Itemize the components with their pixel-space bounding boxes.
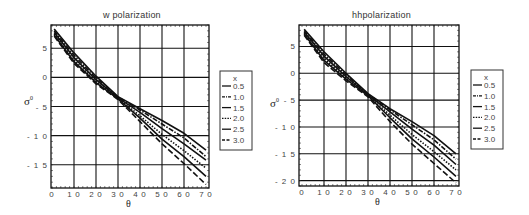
legend-entry: 1.5 xyxy=(484,103,496,112)
y-tick-label: - 1 0 xyxy=(275,123,296,132)
y-tick-label: - 5 xyxy=(284,96,296,105)
legend-entry: 3.0 xyxy=(484,135,496,144)
plot-frame xyxy=(299,25,459,186)
series-group xyxy=(304,29,456,183)
legend-entry: 2.5 xyxy=(484,124,496,133)
series-1.5 xyxy=(304,32,456,165)
plot-area: 01 02 03 04 05 06 07 050- 5- 1 0- 1 5- 2… xyxy=(0,0,529,215)
x-tick-label: 6 0 xyxy=(427,188,441,197)
y-tick-label: - 1 5 xyxy=(275,150,296,159)
x-tick-label: 0 xyxy=(299,188,304,197)
chart-hh-polarization: hhpolarization σ0 θ 01 02 03 04 05 06 07… xyxy=(0,0,529,215)
x-tick-label: 2 0 xyxy=(339,188,353,197)
legend-entry: 1.0 xyxy=(484,92,496,101)
x-tick-label: 7 0 xyxy=(449,188,463,197)
y-axis-label: σ0 xyxy=(270,97,279,109)
x-tick-label: 5 0 xyxy=(405,188,419,197)
y-tick-label: 5 xyxy=(291,42,296,51)
x-tick-label: 4 0 xyxy=(383,188,397,197)
x-tick-label: 3 0 xyxy=(361,188,375,197)
grid xyxy=(299,25,459,186)
x-axis-label: θ xyxy=(375,196,380,207)
series-1.0 xyxy=(304,30,456,159)
y-tick-label: 0 xyxy=(291,69,296,78)
series-0.5 xyxy=(304,29,456,154)
x-tick-label: 1 0 xyxy=(317,188,331,197)
legend-entry: 0.5 xyxy=(484,81,496,90)
y-tick-label: - 2 0 xyxy=(275,177,296,186)
legend-entry: 2.0 xyxy=(484,113,496,122)
legend: x0.51.01.52.02.53.0 xyxy=(471,70,503,149)
chart-title: hhpolarization xyxy=(352,10,411,20)
